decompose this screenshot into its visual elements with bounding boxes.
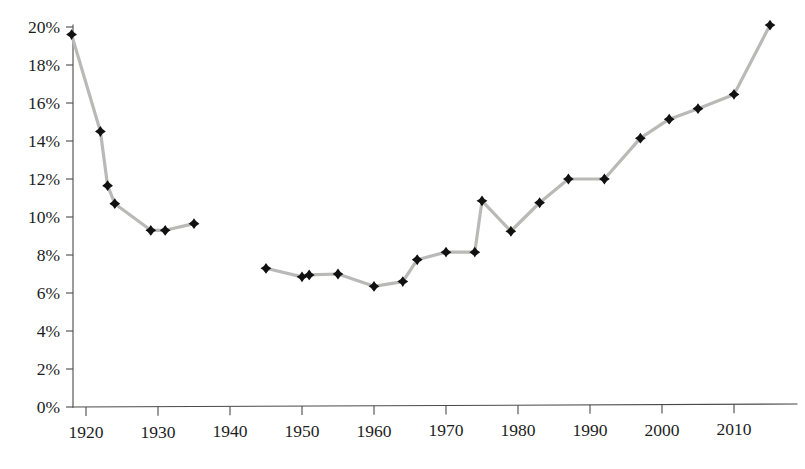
y-axis-tick-labels: 0%2%4%6%8%10%12%14%16%18%20% (28, 17, 60, 417)
y-tick-label: 10% (28, 207, 60, 227)
x-tick-label: 1960 (357, 421, 392, 441)
data-point-marker (729, 89, 740, 100)
chart-container: 0%2%4%6%8%10%12%14%16%18%20% 19201930194… (0, 0, 805, 469)
data-point-marker (333, 269, 344, 280)
x-tick-label: 1970 (429, 420, 464, 440)
y-tick-label: 16% (28, 93, 60, 113)
data-point-marker (441, 247, 452, 258)
x-tick-label: 1930 (141, 422, 176, 442)
data-point-marker (66, 29, 77, 40)
y-tick-label: 12% (28, 169, 60, 189)
data-point-marker (102, 180, 113, 191)
series-polyline (72, 25, 770, 286)
x-axis-tick-labels: 1920193019401950196019701980199020002010 (69, 419, 752, 442)
data-point-marker (189, 218, 200, 229)
data-point-marker (95, 126, 106, 137)
x-tick-label: 1940 (213, 421, 248, 441)
data-point-marker (369, 281, 380, 292)
data-point-marker (160, 225, 171, 236)
x-axis-line (73, 404, 797, 407)
chart-tick-marks (66, 27, 734, 416)
chart-axes (73, 25, 797, 407)
data-point-marker (765, 20, 776, 31)
y-tick-label: 20% (28, 17, 60, 37)
x-tick-label: 1990 (573, 420, 608, 440)
x-tick-label: 2010 (717, 419, 752, 439)
y-tick-label: 2% (37, 359, 60, 379)
y-tick-label: 14% (28, 131, 60, 151)
chart-series-line (72, 25, 770, 286)
x-tick-label: 2000 (645, 420, 680, 440)
y-tick-label: 6% (37, 283, 60, 303)
data-point-marker (297, 271, 308, 282)
y-tick-label: 0% (37, 397, 60, 417)
line-chart: 0%2%4%6%8%10%12%14%16%18%20% 19201930194… (0, 0, 805, 469)
chart-series-markers (66, 20, 775, 292)
x-tick-label: 1950 (285, 421, 320, 441)
y-tick-label: 4% (37, 321, 60, 341)
data-point-marker (693, 103, 704, 114)
y-tick-label: 18% (28, 55, 60, 75)
y-tick-label: 8% (37, 245, 60, 265)
data-point-marker (304, 270, 315, 281)
x-tick-label: 1920 (69, 422, 104, 442)
data-point-marker (469, 247, 480, 258)
x-tick-label: 1980 (501, 420, 536, 440)
data-point-marker (261, 263, 272, 274)
